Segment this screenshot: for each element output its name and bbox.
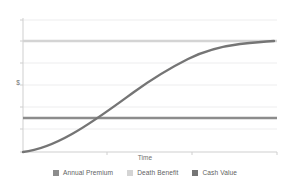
legend-item-annual-premium[interactable]: Annual Premium bbox=[53, 169, 113, 176]
legend-item-death-benefit[interactable]: Death Benefit bbox=[127, 169, 178, 176]
series-line-cash-value bbox=[23, 41, 274, 152]
x-axis-title: Time bbox=[0, 154, 290, 161]
gridlines bbox=[23, 20, 277, 129]
y-axis bbox=[20, 18, 23, 152]
legend-swatch-icon bbox=[53, 170, 59, 176]
legend-swatch-icon bbox=[127, 170, 133, 176]
legend-label: Annual Premium bbox=[63, 169, 113, 176]
legend-label: Cash Value bbox=[202, 169, 237, 176]
legend-item-cash-value[interactable]: Cash Value bbox=[192, 169, 237, 176]
y-axis-title: $ bbox=[6, 79, 20, 86]
chart-container: $ Time Annual Premium Death Benefit Cash… bbox=[0, 0, 290, 189]
legend-label: Death Benefit bbox=[137, 169, 178, 176]
legend-swatch-icon bbox=[192, 170, 198, 176]
chart-legend: Annual Premium Death Benefit Cash Value bbox=[0, 169, 290, 176]
